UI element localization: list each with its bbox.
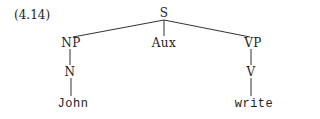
edge-s-vp <box>164 20 250 37</box>
leaf-write: write <box>235 98 274 110</box>
edge-s-np <box>73 20 164 37</box>
node-vp: VP <box>244 37 262 49</box>
node-s: S <box>160 7 169 19</box>
node-np: NP <box>61 37 81 49</box>
node-n: N <box>65 66 76 78</box>
node-v: V <box>246 66 255 78</box>
leaf-john: John <box>58 98 89 110</box>
node-aux: Aux <box>152 37 177 49</box>
